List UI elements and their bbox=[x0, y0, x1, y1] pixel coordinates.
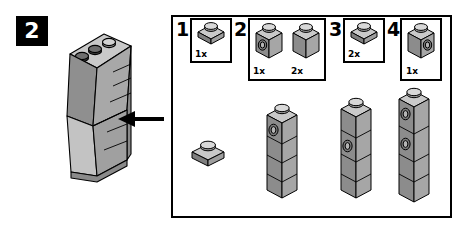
step-number-badge: 2 bbox=[16, 16, 48, 46]
callout-number-4: 4 bbox=[387, 20, 400, 39]
callout-number-1: 1 bbox=[176, 20, 189, 39]
sub-build-stack-b bbox=[336, 96, 378, 208]
callout-2-qty-1: 1x bbox=[253, 67, 265, 76]
callout-4-brick-side-stud bbox=[404, 22, 438, 60]
arrow-left-icon bbox=[118, 110, 164, 128]
callout-2-brick-plain bbox=[289, 22, 323, 60]
callout-2-brick-side-stud bbox=[252, 22, 286, 60]
callout-number-2: 2 bbox=[234, 20, 247, 39]
callout-1-plate-1x1 bbox=[194, 22, 228, 44]
callout-1-qty: 1x bbox=[195, 50, 207, 59]
sub-build-single-plate bbox=[188, 140, 228, 166]
callout-3-qty: 2x bbox=[348, 50, 360, 59]
instruction-page: 2 bbox=[0, 0, 465, 240]
callout-3-plate-1x1 bbox=[347, 22, 381, 44]
callout-2-qty-2: 2x bbox=[291, 67, 303, 76]
callout-4-qty: 1x bbox=[406, 67, 418, 76]
callout-number-3: 3 bbox=[329, 20, 342, 39]
sub-build-stack-c bbox=[394, 86, 436, 211]
sub-build-stack-a bbox=[262, 102, 304, 207]
